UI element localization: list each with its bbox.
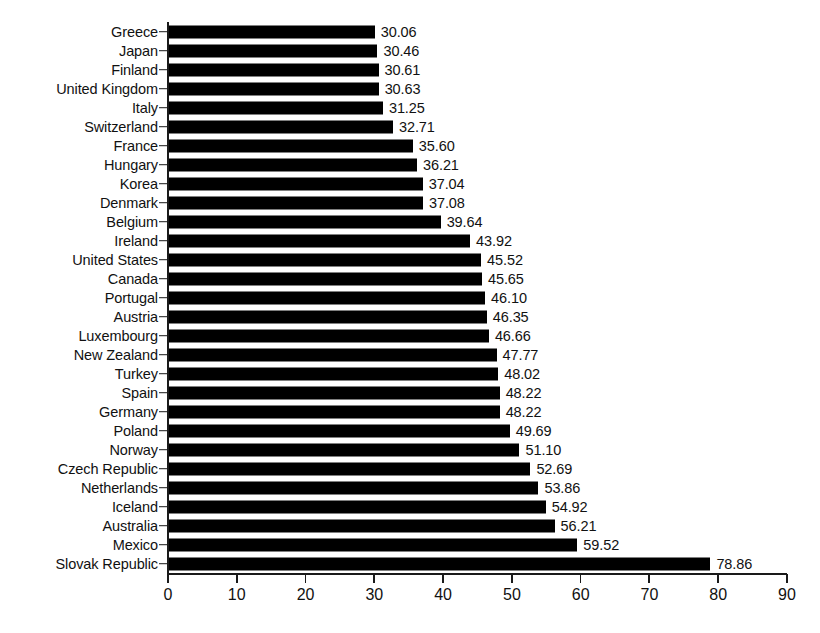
category-label: Greece: [111, 24, 158, 40]
x-axis-tick-label: 0: [164, 586, 173, 604]
bar-value-label: 49.69: [516, 423, 552, 439]
category-label: Germany: [99, 404, 158, 420]
category-label: Italy: [132, 100, 158, 116]
category-label: Mexico: [113, 537, 158, 553]
bar: [168, 120, 393, 133]
x-axis-tick: [717, 574, 719, 583]
bar: [168, 158, 417, 171]
bar: [168, 348, 497, 361]
bar-value-label: 43.92: [476, 233, 512, 249]
bar: [168, 329, 489, 342]
x-axis-tick-label: 80: [709, 586, 727, 604]
bar-value-label: 48.22: [506, 404, 542, 420]
bar-row: Norway51.10: [0, 440, 820, 459]
bar-value-label: 78.86: [716, 556, 752, 572]
x-axis-tick-label: 10: [228, 586, 246, 604]
x-axis-tick-label: 50: [503, 586, 521, 604]
bar-value-label: 48.02: [504, 366, 540, 382]
x-axis-tick: [786, 574, 788, 583]
category-label: Iceland: [112, 499, 158, 515]
bar-row: Luxembourg46.66: [0, 326, 820, 345]
bar-chart: Greece30.06Japan30.46Finland30.61United …: [0, 0, 820, 633]
bar: [168, 139, 413, 152]
bar-row: Australia56.21: [0, 516, 820, 535]
bar: [168, 367, 498, 380]
bar-value-label: 45.52: [487, 252, 523, 268]
bar: [168, 310, 487, 323]
x-axis-tick: [442, 574, 444, 583]
x-axis-tick-label: 40: [434, 586, 452, 604]
bar-row: Denmark37.08: [0, 193, 820, 212]
x-axis-tick-label: 30: [365, 586, 383, 604]
bar: [168, 196, 423, 209]
bar-row: Ireland43.92: [0, 231, 820, 250]
category-label: Norway: [109, 442, 158, 458]
plot-area: Greece30.06Japan30.46Finland30.61United …: [0, 0, 820, 633]
category-label: Korea: [120, 176, 158, 192]
bar-value-label: 52.69: [536, 461, 572, 477]
category-label: Slovak Republic: [56, 556, 158, 572]
bar-row: Poland49.69: [0, 421, 820, 440]
bar-value-label: 30.61: [385, 62, 421, 78]
bar-row: Mexico59.52: [0, 535, 820, 554]
bar: [168, 215, 441, 228]
bar: [168, 272, 482, 285]
bar-value-label: 47.77: [503, 347, 539, 363]
x-axis-tick: [167, 574, 169, 583]
bar-value-label: 30.06: [381, 24, 417, 40]
bar-row: United States45.52: [0, 250, 820, 269]
x-axis-tick: [305, 574, 307, 583]
bar: [168, 253, 481, 266]
bar-value-label: 53.86: [544, 480, 580, 496]
category-label: United Kingdom: [56, 81, 158, 97]
bar-value-label: 59.52: [583, 537, 619, 553]
bar-row: Italy31.25: [0, 98, 820, 117]
bar: [168, 424, 510, 437]
bar-value-label: 54.92: [552, 499, 588, 515]
category-label: Turkey: [115, 366, 158, 382]
bar: [168, 25, 375, 38]
bar-row: Slovak Republic78.86: [0, 554, 820, 573]
bar-value-label: 37.04: [429, 176, 465, 192]
bar-value-label: 39.64: [447, 214, 483, 230]
category-label: Belgium: [106, 214, 158, 230]
category-label: Luxembourg: [78, 328, 158, 344]
bar: [168, 500, 546, 513]
x-axis-tick: [236, 574, 238, 583]
bar-row: Switzerland32.71: [0, 117, 820, 136]
category-label: Netherlands: [81, 480, 158, 496]
bar-row: Austria46.35: [0, 307, 820, 326]
category-label: Finland: [111, 62, 158, 78]
category-label: Denmark: [100, 195, 158, 211]
bar-row: United Kingdom30.63: [0, 79, 820, 98]
bar: [168, 557, 710, 570]
bar-value-label: 46.10: [491, 290, 527, 306]
bar: [168, 405, 500, 418]
bar-row: Portugal46.10: [0, 288, 820, 307]
bar: [168, 291, 485, 304]
bar-value-label: 30.46: [383, 43, 419, 59]
bar: [168, 101, 383, 114]
category-label: France: [113, 138, 158, 154]
bar-row: Turkey48.02: [0, 364, 820, 383]
bar-row: Canada45.65: [0, 269, 820, 288]
bar-row: Netherlands53.86: [0, 478, 820, 497]
bar-value-label: 31.25: [389, 100, 425, 116]
bar-value-label: 37.08: [429, 195, 465, 211]
x-axis-tick-label: 70: [641, 586, 659, 604]
bar: [168, 44, 377, 57]
bar-row: Iceland54.92: [0, 497, 820, 516]
x-axis-tick: [373, 574, 375, 583]
category-label: Australia: [102, 518, 158, 534]
x-axis-tick-label: 20: [297, 586, 315, 604]
bar-value-label: 32.71: [399, 119, 435, 135]
bar: [168, 234, 470, 247]
bar-value-label: 51.10: [525, 442, 561, 458]
bar: [168, 386, 500, 399]
bar: [168, 462, 530, 475]
bar: [168, 519, 555, 532]
x-axis-tick-label: 60: [572, 586, 590, 604]
bar: [168, 63, 379, 76]
bar: [168, 82, 379, 95]
x-axis-line: [167, 573, 787, 575]
